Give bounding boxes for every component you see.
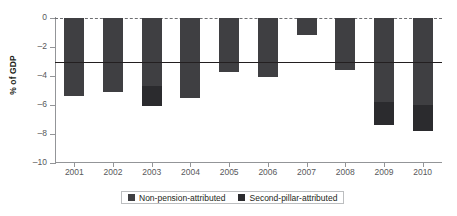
bar[interactable]: [142, 18, 162, 163]
bar[interactable]: [64, 18, 84, 163]
bar-segment: [180, 18, 200, 98]
y-axis-tick-label: –2: [21, 41, 47, 51]
average-reference-line: [55, 62, 442, 64]
x-axis-tick-label: 2009: [365, 167, 404, 177]
y-axis-tick-label: –8: [21, 128, 47, 138]
x-axis-tick-label: 2001: [55, 167, 94, 177]
x-axis-tick-label: 2008: [326, 167, 365, 177]
legend-swatch-icon: [128, 194, 135, 201]
bar-segment: [142, 86, 162, 106]
y-axis-tick-label: –6: [21, 99, 47, 109]
legend-label: Second-pillar-attributed: [249, 193, 337, 203]
y-axis-tick: –4: [50, 76, 55, 77]
y-axis-tick: –6: [50, 105, 55, 106]
plot-area: 0–2–4–6–8–10 200120022003200420052006200…: [55, 18, 442, 163]
bar-segment: [374, 18, 394, 102]
y-axis-tick: –10: [50, 163, 55, 164]
bar[interactable]: [335, 18, 355, 163]
bar[interactable]: [103, 18, 123, 163]
y-axis-tick: –8: [50, 134, 55, 135]
x-axis-tick-label: 2005: [210, 167, 249, 177]
bar-segment: [297, 18, 317, 35]
bar[interactable]: [374, 18, 394, 163]
bar-segment: [219, 18, 239, 72]
x-axis-tick-label: 2003: [132, 167, 171, 177]
bar-segment: [142, 18, 162, 86]
x-axis-tick-label: 2004: [171, 167, 210, 177]
chart-legend: Non-pension-attributed Second-pillar-att…: [121, 191, 344, 204]
x-axis-tick-label: 2002: [94, 167, 133, 177]
y-axis-line: [55, 17, 56, 164]
y-axis-tick-label: –10: [21, 157, 47, 167]
y-axis-tick: –2: [50, 47, 55, 48]
x-axis-tick-label: 2006: [249, 167, 288, 177]
bar-segment: [103, 18, 123, 92]
y-axis-tick-label: 0: [21, 12, 47, 22]
bar[interactable]: [413, 18, 433, 163]
bar[interactable]: [258, 18, 278, 163]
bar-segment: [374, 102, 394, 125]
x-axis-tick-label: 2010: [403, 167, 442, 177]
bar-chart: % of GDP 0–2–4–6–8–10 200120022003200420…: [0, 0, 457, 216]
bar-segment: [413, 105, 433, 131]
bar[interactable]: [180, 18, 200, 163]
x-axis-tick-label: 2007: [287, 167, 326, 177]
legend-swatch-icon: [238, 194, 245, 201]
legend-item-non-pension-attributed: Non-pension-attributed: [128, 193, 225, 203]
bar-segment: [64, 18, 84, 96]
legend-label: Non-pension-attributed: [139, 193, 225, 203]
y-axis-tick-label: –4: [21, 70, 47, 80]
bar[interactable]: [297, 18, 317, 163]
bar[interactable]: [219, 18, 239, 163]
legend-item-second-pillar-attributed: Second-pillar-attributed: [238, 193, 337, 203]
bar-segment: [258, 18, 278, 77]
y-axis-title: % of GDP: [8, 40, 18, 110]
